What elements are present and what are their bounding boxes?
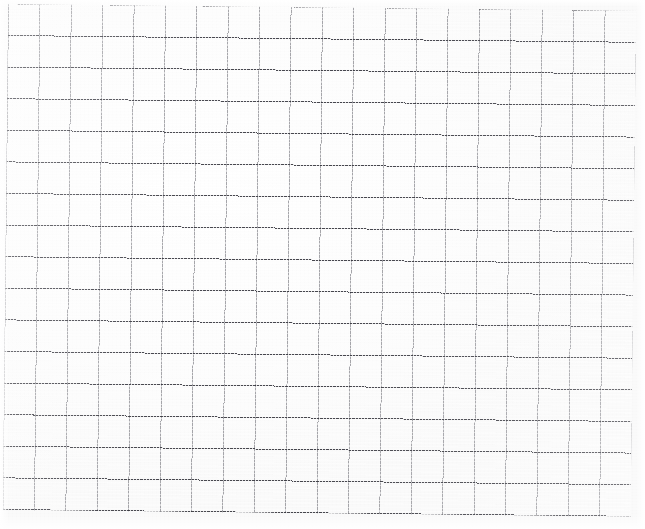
- grid-block: [3, 4, 636, 517]
- horizontal-grid-lines: [3, 4, 636, 517]
- scanned-grid-paper-page: Blank square-ruled graph paper, scanned;…: [0, 0, 645, 529]
- grid-sheet: [3, 4, 636, 517]
